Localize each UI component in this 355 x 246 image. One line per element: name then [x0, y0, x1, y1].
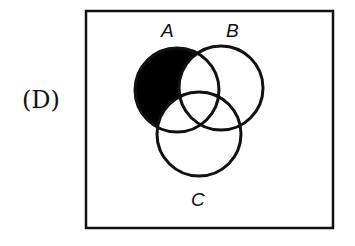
set-label-b: B: [226, 20, 239, 41]
universe-box: [86, 11, 333, 228]
set-label-c: C: [191, 189, 205, 210]
venn-diagram: A B C: [0, 0, 355, 246]
set-label-a: A: [160, 20, 174, 41]
